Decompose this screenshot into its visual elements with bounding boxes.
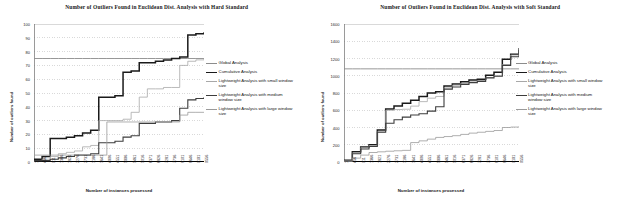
legend-label: Lightweight Analysis with large window s… — [528, 106, 606, 117]
x-tick-label: 4096 — [420, 155, 424, 163]
x-tick-label: 1821 — [68, 155, 72, 163]
legend-item[interactable]: Lightweight Analysis with small window s… — [516, 78, 607, 89]
series-line — [344, 48, 519, 160]
legend-label: Global Analysis — [219, 60, 248, 65]
legend-swatch — [516, 72, 527, 73]
legend-item[interactable]: Lightweight Analysis with small window s… — [206, 78, 297, 89]
x-tick-label: 1 — [345, 161, 349, 163]
x-axis-title-soft: Number of instances processed — [344, 188, 519, 193]
legend-item[interactable]: Lightweight Analysis with large window s… — [516, 106, 607, 117]
legend-label: Lightweight Analysis with medium window … — [528, 92, 606, 103]
x-tick-label: 2276 — [76, 155, 80, 163]
y-tick-label: 60 — [0, 77, 30, 82]
x-tick-label: 5461 — [445, 155, 449, 163]
x-tick-label: 8646 — [503, 155, 507, 163]
legend-item[interactable]: Global Analysis — [516, 60, 607, 65]
y-tick-label: 1200 — [314, 56, 340, 61]
x-tick-label: 6371 — [149, 155, 153, 163]
legend-swatch — [516, 95, 527, 96]
x-tick-label: 7281 — [165, 155, 169, 163]
x-tick-label: 911 — [52, 157, 56, 163]
x-tick-label: 5006 — [437, 155, 441, 163]
y-tick-label: 90 — [0, 35, 30, 40]
x-tick-label: 3641 — [412, 155, 416, 163]
x-tick-label: 5916 — [453, 155, 457, 163]
legend-label: Cumulative Analysis — [219, 69, 257, 74]
y-tick-label: 40 — [0, 104, 30, 109]
y-tick-label: 400 — [314, 125, 340, 130]
legend-label: Global Analysis — [528, 60, 557, 65]
x-tick-label: 3641 — [100, 155, 104, 163]
series-line — [34, 59, 204, 161]
plot-area-hard — [34, 24, 204, 162]
y-tick-label: 80 — [0, 49, 30, 54]
x-tick-label: 3186 — [403, 155, 407, 163]
y-tick-label: 200 — [314, 142, 340, 147]
y-tick-label: 0 — [314, 160, 340, 165]
chart-panel-hard-standard: Number of Outliers Found in Euclidean Di… — [0, 0, 314, 208]
x-tick-label: 1821 — [378, 155, 382, 163]
series-line — [344, 49, 519, 161]
x-tick-label: 4551 — [116, 155, 120, 163]
legend-item[interactable]: Cumulative Analysis — [206, 69, 297, 74]
legend-item[interactable]: Lightweight Analysis with medium window … — [206, 92, 297, 103]
y-tick-label: 1600 — [314, 22, 340, 27]
legend-swatch — [516, 81, 527, 82]
x-tick-label: 9556 — [520, 155, 524, 163]
x-tick-label: 4096 — [108, 155, 112, 163]
x-tick-label: 9101 — [197, 155, 201, 163]
y-tick-label: 600 — [314, 108, 340, 113]
legend-soft: Global AnalysisCumulative AnalysisLightw… — [516, 60, 607, 120]
y-tick-label: 100 — [0, 22, 30, 27]
y-tick-label: 1000 — [314, 73, 340, 78]
x-tick-label: 1 — [35, 161, 39, 163]
legend-swatch — [206, 63, 217, 64]
legend-item[interactable]: Lightweight Analysis with medium window … — [516, 92, 607, 103]
y-tick-label: 0 — [0, 160, 30, 165]
y-tick-label: 20 — [0, 132, 30, 137]
legend-swatch — [206, 95, 217, 96]
legend-item[interactable]: Lightweight Analysis with large window s… — [206, 106, 297, 117]
series-line — [34, 32, 204, 159]
y-tick-label: 1400 — [314, 39, 340, 44]
x-tick-label: 4551 — [428, 155, 432, 163]
x-tick-label: 8646 — [189, 155, 193, 163]
legend-hard: Global AnalysisCumulative AnalysisLightw… — [206, 60, 297, 120]
x-tick-label: 6826 — [157, 155, 161, 163]
y-tick-label: 30 — [0, 118, 30, 123]
plot-area-soft — [344, 24, 519, 162]
x-tick-label: 6371 — [462, 155, 466, 163]
legend-swatch — [206, 109, 217, 110]
x-tick-label: 7736 — [173, 155, 177, 163]
x-tick-label: 5461 — [133, 155, 137, 163]
x-tick-label: 2276 — [387, 155, 391, 163]
series-line — [34, 112, 204, 155]
x-tick-label: 7281 — [478, 155, 482, 163]
x-tick-label: 9556 — [205, 155, 209, 163]
chart-title-hard: Number of Outliers Found in Euclidean Di… — [0, 4, 314, 10]
legend-item[interactable]: Global Analysis — [206, 60, 297, 65]
x-tick-label: 6826 — [470, 155, 474, 163]
legend-label: Lightweight Analysis with small window s… — [219, 78, 297, 89]
legend-swatch — [516, 109, 527, 110]
x-tick-label: 7736 — [487, 155, 491, 163]
legend-swatch — [206, 72, 217, 73]
x-tick-label: 1366 — [60, 155, 64, 163]
legend-label: Lightweight Analysis with large window s… — [219, 106, 297, 117]
legend-label: Lightweight Analysis with small window s… — [528, 78, 606, 89]
y-tick-label: 50 — [0, 91, 30, 96]
x-tick-label: 1366 — [370, 155, 374, 163]
legend-swatch — [206, 81, 217, 82]
y-tick-label: 800 — [314, 91, 340, 96]
y-axis-title-soft: Number of outliers found — [320, 92, 325, 142]
legend-label: Lightweight Analysis with medium window … — [219, 92, 297, 103]
x-axis-title-hard: Number of instances processed — [34, 188, 204, 193]
legend-item[interactable]: Cumulative Analysis — [516, 69, 607, 74]
figure-container: Number of Outliers Found in Euclidean Di… — [0, 0, 627, 208]
y-tick-label: 70 — [0, 63, 30, 68]
chart-panel-soft-standard: Number of Outliers Found in Euclidean Di… — [314, 0, 627, 208]
x-tick-label: 5006 — [124, 155, 128, 163]
legend-swatch — [516, 63, 527, 64]
x-tick-label: 9101 — [512, 155, 516, 163]
x-tick-label: 2731 — [84, 155, 88, 163]
